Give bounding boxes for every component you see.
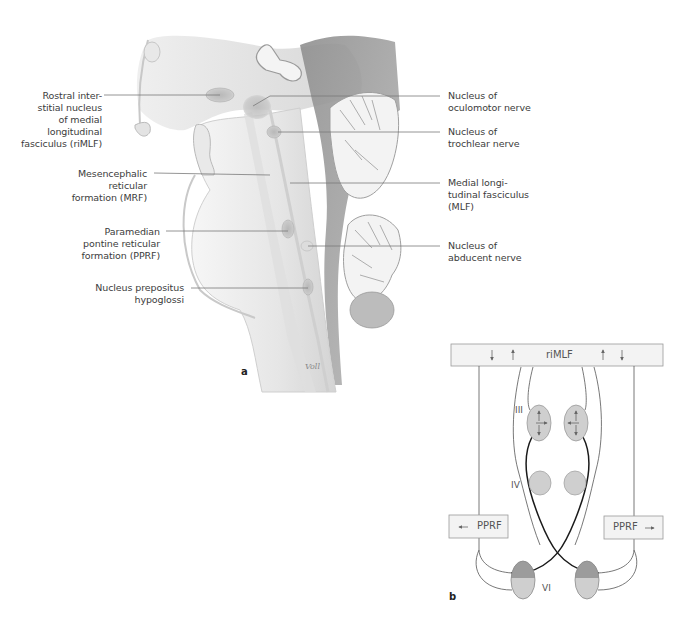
nucleus-label-VI: VI [542,583,551,593]
nucleus-label-III: III [515,405,523,415]
nucleus-label-IV: IV [511,480,520,490]
panel-b-letter: b [449,591,456,602]
trochlear-nuclei-IV [529,471,586,495]
pprf-right-label: PPRF [613,521,638,532]
rimlf-pprf-connections [476,366,637,590]
pprf-left-label: PPRF [477,520,502,531]
abducent-nuclei-VI [510,560,600,599]
rimlf-box-label: riMLF [546,349,573,360]
oculomotor-nuclei-III [527,405,588,441]
panel-b-schematic [0,0,694,633]
mlf-pathways [511,437,599,573]
